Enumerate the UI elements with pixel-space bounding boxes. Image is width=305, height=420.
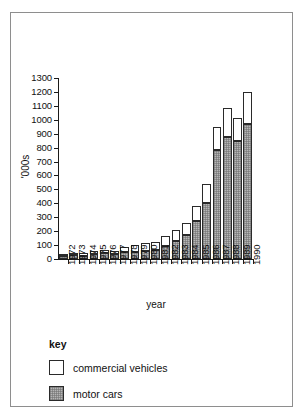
- y-axis-tick: [54, 231, 59, 232]
- y-axis-tick: [54, 92, 59, 93]
- bar-segment-commercial-vehicles: [243, 92, 252, 124]
- y-axis-tick: [54, 259, 59, 260]
- x-axis-tick: [140, 260, 141, 264]
- legend-item-label: motor cars: [73, 388, 123, 400]
- y-axis-tick-label: 200: [14, 226, 52, 236]
- bar-segment-motor-cars: [243, 124, 252, 259]
- y-axis-title: '000s: [20, 145, 31, 189]
- y-axis-tick-label: 1300: [14, 73, 52, 83]
- legend-item-label: commercial vehicles: [73, 362, 168, 374]
- y-axis-tick: [54, 203, 59, 204]
- y-axis-tick: [54, 217, 59, 218]
- white-square-icon: [49, 360, 64, 375]
- y-axis-tick: [54, 245, 59, 246]
- bar-segment-motor-cars: [223, 137, 232, 259]
- legend-title: key: [49, 338, 269, 350]
- x-axis-tick: [253, 260, 254, 264]
- y-axis-tick: [54, 148, 59, 149]
- bar-segment-commercial-vehicles: [223, 108, 232, 137]
- figure-frame: 0100200300400500600700800900100011001200…: [10, 12, 293, 407]
- plot-area: [58, 78, 253, 259]
- y-axis-tick: [54, 120, 59, 121]
- legend-key: key commercial vehicles motor cars: [49, 338, 269, 412]
- bar-segment-commercial-vehicles: [213, 127, 222, 150]
- x-axis-tick: [222, 260, 223, 264]
- x-axis-tick: [150, 260, 151, 264]
- bar-group: [233, 118, 242, 259]
- x-axis-tick: [161, 260, 162, 264]
- y-axis-tick: [54, 106, 59, 107]
- x-axis-tick: [202, 260, 203, 264]
- bar-segment-commercial-vehicles: [202, 184, 211, 203]
- bar-chart: 0100200300400500600700800900100011001200…: [11, 13, 294, 313]
- y-axis-tick-label: 1200: [14, 87, 52, 97]
- y-axis-tick: [54, 162, 59, 163]
- y-axis-tick: [54, 134, 59, 135]
- bar-segment-commercial-vehicles: [182, 223, 191, 235]
- x-axis-tick: [243, 260, 244, 264]
- bar-group: [223, 108, 232, 259]
- y-axis-tick-label: 0: [14, 254, 52, 264]
- legend-item-motor-cars: motor cars: [49, 386, 269, 401]
- x-axis-tick: [109, 260, 110, 264]
- x-axis-tick: [120, 260, 121, 264]
- bar-segment-motor-cars: [213, 150, 222, 259]
- x-axis-tick: [99, 260, 100, 264]
- bar-group: [213, 127, 222, 259]
- x-axis-tick: [79, 260, 80, 264]
- x-axis-tick: [181, 260, 182, 264]
- y-axis-tick-label: 900: [14, 129, 52, 139]
- y-axis-tick-label: 300: [14, 212, 52, 222]
- y-axis-tick-label: 100: [14, 240, 52, 250]
- x-axis-tick: [171, 260, 172, 264]
- y-axis-tick: [54, 175, 59, 176]
- x-axis-tick: [191, 260, 192, 264]
- y-axis-tick-label: 1000: [14, 115, 52, 125]
- y-axis-labels: 0100200300400500600700800900100011001200…: [11, 13, 52, 313]
- y-axis-tick: [54, 189, 59, 190]
- x-axis-tick: [68, 260, 69, 264]
- x-axis-tick: [232, 260, 233, 264]
- x-axis-tick: [212, 260, 213, 264]
- legend-item-commercial-vehicles: commercial vehicles: [49, 360, 269, 375]
- bar-group: [243, 92, 252, 259]
- y-axis-tick: [54, 78, 59, 79]
- bar-segment-commercial-vehicles: [192, 206, 201, 221]
- y-axis-tick-label: 400: [14, 198, 52, 208]
- gray-hatched-square-icon: [49, 386, 64, 401]
- x-axis-title: year: [58, 299, 254, 310]
- bar-segment-commercial-vehicles: [172, 230, 181, 240]
- bar-segment-motor-cars: [233, 141, 242, 259]
- bar-segment-commercial-vehicles: [233, 118, 242, 140]
- x-axis-tick: [89, 260, 90, 264]
- x-axis-tick: [130, 260, 131, 264]
- y-axis-tick-label: 1100: [14, 101, 52, 111]
